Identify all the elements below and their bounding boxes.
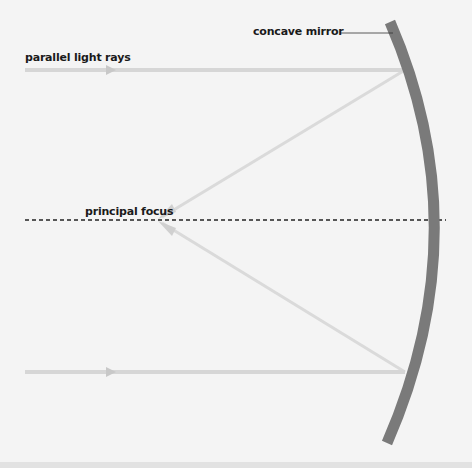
rays-label: parallel light rays — [25, 51, 131, 64]
concave-mirror — [387, 22, 434, 443]
arrowhead-ray-top — [106, 65, 116, 75]
focus-label: principal focus — [85, 205, 173, 218]
reflected-ray-bottom — [162, 223, 405, 372]
bottom-strip — [0, 462, 472, 468]
concave-mirror-diagram — [0, 0, 472, 468]
arrowhead-focus-bottom — [158, 221, 176, 236]
reflected-ray-top — [162, 70, 405, 217]
arrowhead-ray-bottom — [106, 367, 116, 377]
mirror-label: concave mirror — [253, 25, 344, 38]
